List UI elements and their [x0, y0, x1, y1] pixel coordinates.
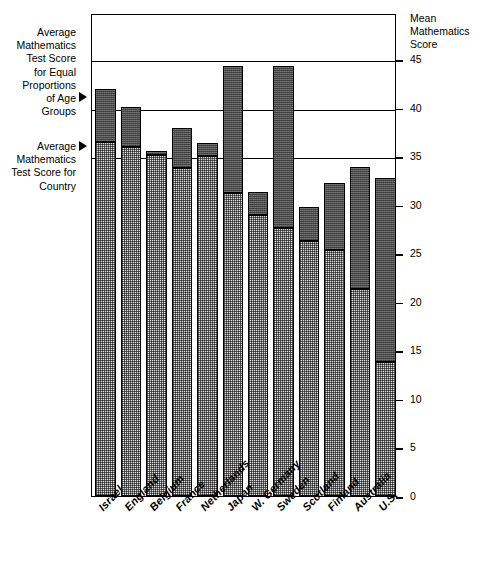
bar-country-score[interactable]	[146, 155, 167, 496]
bar-equal-proportions-score[interactable]	[121, 107, 142, 148]
bar-group-sweden[interactable]	[273, 13, 294, 496]
y-tick-label-5: 5	[410, 441, 416, 453]
y-tick-mark-15	[396, 351, 403, 353]
bar-country-score[interactable]	[299, 241, 320, 496]
y-axis-title-line-2: Mathematics	[410, 25, 494, 38]
annotation-country-line-1: Average	[4, 140, 76, 153]
annotation-equal-line-5: Proportions	[4, 79, 76, 92]
bar-equal-proportions-score[interactable]	[172, 128, 193, 168]
bar-country-score[interactable]	[95, 142, 116, 496]
y-axis-title-line-3: Score	[410, 38, 494, 51]
bar-equal-proportions-score[interactable]	[248, 192, 269, 215]
bar-group-w-germany[interactable]	[248, 13, 269, 496]
bar-country-score[interactable]	[350, 289, 371, 496]
y-tick-label-40: 40	[410, 102, 422, 114]
annotation-equal-line-3: Test Score	[4, 52, 76, 65]
y-tick-mark-25	[396, 254, 403, 256]
bar-group-japan[interactable]	[223, 13, 244, 496]
bar-group-finland[interactable]	[324, 13, 345, 496]
bar-country-score[interactable]	[375, 362, 396, 496]
bar-group-netherlands[interactable]	[197, 13, 218, 496]
y-tick-label-0: 0	[410, 490, 416, 502]
y-tick-mark-35	[396, 157, 403, 159]
annotation-equal-line-6: of Age	[4, 92, 76, 105]
y-axis-title-line-1: Mean	[410, 12, 494, 25]
bar-group-israel[interactable]	[95, 13, 116, 496]
y-tick-label-10: 10	[410, 393, 422, 405]
bar-group-france[interactable]	[172, 13, 193, 496]
bar-equal-proportions-score[interactable]	[197, 143, 218, 156]
bar-country-score[interactable]	[223, 193, 244, 496]
bar-group-england[interactable]	[121, 13, 142, 496]
annotation-equal-line-4: for Equal	[4, 66, 76, 79]
bar-country-score[interactable]	[197, 156, 218, 496]
annotation-equal-line-2: Mathematics	[4, 39, 76, 52]
annotation-country-line-2: Mathematics	[4, 153, 76, 166]
bar-group-belgium[interactable]	[146, 13, 167, 496]
y-tick-mark-45	[396, 60, 403, 62]
bar-country-score[interactable]	[121, 147, 142, 496]
bar-group-u-s[interactable]	[375, 13, 396, 496]
annotation-country-average: Average Mathematics Test Score for Count…	[4, 140, 76, 193]
bar-equal-proportions-score[interactable]	[146, 151, 167, 155]
bar-country-score[interactable]	[324, 250, 345, 496]
annotation-country-line-3: Test Score for	[4, 166, 76, 179]
bar-country-score[interactable]	[172, 168, 193, 496]
y-tick-label-35: 35	[410, 150, 422, 162]
y-tick-mark-20	[396, 303, 403, 305]
bar-country-score[interactable]	[248, 215, 269, 496]
y-tick-label-25: 25	[410, 247, 422, 259]
bar-equal-proportions-score[interactable]	[299, 207, 320, 241]
bar-group-australia[interactable]	[350, 13, 371, 496]
plot-area	[91, 14, 396, 497]
pointer-triangle-icon-equal-proportions	[79, 92, 87, 102]
bar-equal-proportions-score[interactable]	[324, 183, 345, 250]
y-tick-label-20: 20	[410, 296, 422, 308]
annotation-equal-proportions: Average Mathematics Test Score for Equal…	[4, 26, 76, 118]
math-score-bar-chart: Average Mathematics Test Score for Equal…	[0, 0, 499, 577]
y-tick-label-45: 45	[410, 53, 422, 65]
bar-equal-proportions-score[interactable]	[350, 167, 371, 289]
y-tick-mark-5	[396, 448, 403, 450]
bar-equal-proportions-score[interactable]	[95, 89, 116, 141]
y-tick-mark-40	[396, 109, 403, 111]
pointer-triangle-icon-country-average	[79, 141, 87, 151]
bar-equal-proportions-score[interactable]	[223, 66, 244, 193]
y-tick-label-15: 15	[410, 344, 422, 356]
annotation-country-line-4: Country	[4, 180, 76, 193]
bar-group-scotland[interactable]	[299, 13, 320, 496]
y-tick-mark-10	[396, 400, 403, 402]
y-tick-mark-0	[396, 497, 403, 499]
bar-country-score[interactable]	[273, 228, 294, 496]
annotation-equal-line-7: Groups	[4, 105, 76, 118]
y-tick-label-30: 30	[410, 199, 422, 211]
y-axis-title: Mean Mathematics Score	[410, 12, 494, 52]
y-tick-mark-30	[396, 206, 403, 208]
bar-equal-proportions-score[interactable]	[273, 66, 294, 228]
bars-layer	[92, 15, 395, 496]
bar-equal-proportions-score[interactable]	[375, 178, 396, 362]
annotation-equal-line-1: Average	[4, 26, 76, 39]
